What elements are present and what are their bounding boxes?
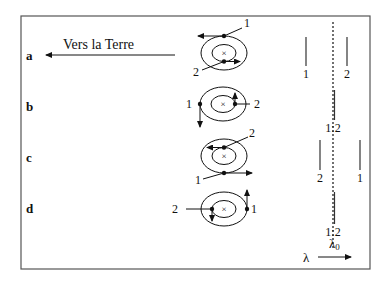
orbit-b: × xyxy=(198,87,250,127)
center-of-mass-icon: × xyxy=(220,99,225,109)
spectrum-label-a-right: 2 xyxy=(344,67,350,81)
star-1-label-c: 1 xyxy=(195,173,201,187)
spectrum-label-c-left: 2 xyxy=(317,171,323,185)
spectrum-label-a-left: 1 xyxy=(303,67,309,81)
wavelength-axis-label: λ xyxy=(303,250,310,265)
star-2-label-c: 2 xyxy=(249,126,255,140)
orbit-c: × xyxy=(201,137,252,179)
center-of-mass-icon: × xyxy=(221,151,226,161)
spectrum-label-c-right: 1 xyxy=(357,171,363,185)
center-of-mass-icon: × xyxy=(221,48,226,58)
star-2-label-d: 2 xyxy=(172,202,178,216)
center-of-mass-icon: × xyxy=(221,204,226,214)
star-1-label-b: 1 xyxy=(186,97,192,111)
figure-frame xyxy=(21,16,370,269)
star-1-label-a: 1 xyxy=(244,16,250,30)
orbit-a: × xyxy=(198,28,247,70)
row-label-c: c xyxy=(26,150,32,165)
star-2-label-a: 2 xyxy=(193,65,199,79)
spectrum-label-b: 1:2 xyxy=(325,121,340,135)
direction-label: Vers la Terre xyxy=(63,37,134,52)
star-1-label-d: 1 xyxy=(251,202,257,216)
star-2-label-b: 2 xyxy=(254,97,260,111)
row-label-d: d xyxy=(26,201,34,216)
row-label-a: a xyxy=(26,48,33,63)
orbit-d: × xyxy=(186,190,249,226)
binary-star-diagram: a b c d Vers la Terre × 1 2 × 1 2 × xyxy=(0,0,389,282)
row-label-b: b xyxy=(26,99,33,114)
